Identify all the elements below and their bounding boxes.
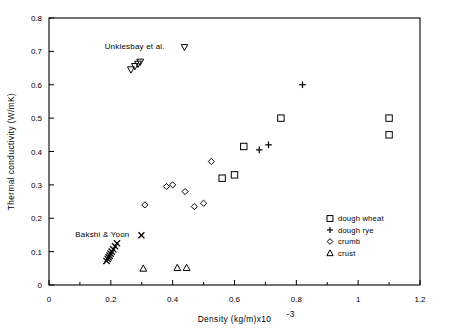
marker-square (386, 115, 392, 121)
y-tick-label: 0.4 (31, 148, 43, 157)
data-point (241, 143, 247, 149)
marker-triangle (174, 264, 181, 270)
y-tick-label: 0.2 (31, 214, 43, 223)
legend-marker-diamond (327, 239, 333, 245)
marker-diamond (142, 202, 148, 208)
y-tick-label: 0.3 (31, 181, 43, 190)
data-point (386, 132, 392, 138)
data-point (191, 203, 197, 209)
y-tick-label: 0.5 (31, 114, 43, 123)
y-tick-label: 0.8 (31, 14, 43, 23)
legend-label: dough wheat (338, 214, 384, 223)
data-point (231, 172, 237, 178)
data-point (183, 264, 190, 270)
plot-frame (49, 18, 420, 285)
x-axis-title: Density (kg/m)x10 (198, 314, 272, 324)
data-point (265, 142, 272, 149)
x-tick-label: 0.6 (229, 295, 241, 304)
data-point (219, 175, 225, 181)
legend: dough wheatdough ryecrumbcrust (327, 214, 385, 258)
data-point (142, 202, 148, 208)
data-point (278, 115, 284, 121)
series-dough-rye (256, 81, 306, 153)
x-tick-label: 1.2 (414, 295, 426, 304)
series-bakshi-yoon (103, 240, 120, 264)
annotation-label: Unklesbay et al. (105, 42, 165, 51)
x-axis-title-exponent: -3 (287, 309, 295, 319)
y-tick-label: 0 (38, 281, 43, 290)
data-point (140, 265, 147, 271)
marker-triangle (140, 265, 147, 271)
marker-triangle (183, 264, 190, 270)
marker-square (231, 172, 237, 178)
marker-diamond (182, 188, 188, 194)
marker-square (278, 115, 284, 121)
scatter-plot-figure: 00.20.40.60.811.200.10.20.30.40.50.60.70… (0, 0, 450, 331)
legend-marker-triangle (327, 250, 333, 256)
legend-label: crust (338, 249, 356, 258)
data-point (386, 115, 392, 121)
plot-canvas: 00.20.40.60.811.200.10.20.30.40.50.60.70… (0, 0, 450, 331)
series-dough-wheat (219, 115, 392, 181)
data-point (299, 81, 306, 88)
marker-diamond (191, 203, 197, 209)
marker-diamond (200, 200, 206, 206)
annotation-marker (181, 45, 187, 51)
y-tick-label: 0.6 (31, 81, 43, 90)
series-unklesbay-et-al (128, 59, 144, 73)
annotation-marker (138, 232, 144, 238)
y-axis-title: Thermal conductivity (W/mK) (6, 93, 16, 210)
y-tick-label: 0.1 (31, 248, 43, 257)
marker-diamond (208, 158, 214, 164)
data-point (256, 147, 263, 154)
marker-down-triangle (181, 45, 187, 51)
marker-diamond (170, 182, 176, 188)
x-tick-label: 0 (47, 295, 52, 304)
marker-triangle (327, 250, 333, 256)
x-tick-label: 0.8 (291, 295, 303, 304)
y-tick-label: 0.7 (31, 47, 43, 56)
marker-diamond (327, 239, 333, 245)
x-tick-label: 0.2 (105, 295, 117, 304)
legend-marker-square (327, 216, 333, 222)
marker-diamond (163, 183, 169, 189)
data-point (182, 188, 188, 194)
series-crust (140, 264, 190, 271)
marker-square (327, 216, 333, 222)
data-point (200, 200, 206, 206)
annotation-label: Bakshi & Yoon (75, 230, 129, 239)
data-point (114, 240, 120, 246)
x-tick-label: 1 (356, 295, 361, 304)
series-crumb (142, 158, 215, 209)
data-point (174, 264, 181, 270)
marker-square (386, 132, 392, 138)
marker-square (219, 175, 225, 181)
legend-marker-plus (327, 227, 333, 233)
legend-label: crumb (338, 237, 360, 246)
data-point (170, 182, 176, 188)
data-point (163, 183, 169, 189)
data-point (208, 158, 214, 164)
legend-label: dough rye (338, 226, 374, 235)
x-tick-label: 0.4 (167, 295, 179, 304)
marker-square (241, 143, 247, 149)
